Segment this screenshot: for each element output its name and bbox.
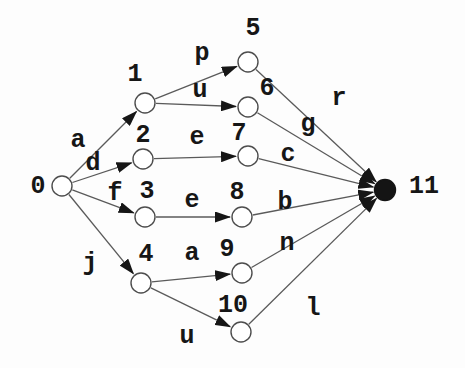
node-label-0: 0 — [30, 172, 45, 201]
edge-label-0-1: a — [70, 126, 85, 155]
node-9 — [232, 263, 252, 283]
node-label-4: 4 — [138, 240, 153, 269]
node-6 — [238, 97, 258, 117]
edge-label-4-10: u — [179, 322, 194, 351]
edge-label-0-2: d — [85, 149, 100, 178]
edge-8-11 — [253, 192, 373, 215]
edge-label-4-9: a — [184, 239, 199, 268]
edge-label-2-7: e — [189, 123, 204, 152]
node-4 — [131, 273, 151, 293]
directed-graph-svg: adfjpueeaurgcbnl01234567891011 — [0, 0, 465, 368]
edge-label-6-11: g — [300, 110, 315, 139]
diagram-canvas: adfjpueeaurgcbnl01234567891011 — [0, 0, 465, 368]
node-label-9: 9 — [219, 235, 234, 264]
edge-4-9 — [152, 274, 230, 282]
node-10 — [231, 322, 251, 342]
edge-label-3-8: e — [184, 186, 199, 215]
node-8 — [232, 207, 252, 227]
edge-label-10-11: l — [305, 294, 320, 323]
node-label-1: 1 — [127, 60, 142, 89]
edge-label-5-11: r — [331, 84, 346, 113]
edge-9-11 — [252, 196, 375, 268]
edge-0-4 — [69, 195, 133, 274]
edge-label-1-6: u — [192, 76, 207, 105]
edge-label-7-11: c — [280, 140, 295, 169]
node-label-8: 8 — [229, 178, 244, 207]
edge-2-7 — [154, 156, 236, 158]
node-2 — [133, 149, 153, 169]
node-7 — [238, 146, 258, 166]
node-label-11: 11 — [409, 172, 439, 201]
node-label-7: 7 — [231, 119, 246, 148]
node-label-3: 3 — [139, 177, 154, 206]
node-0 — [52, 176, 72, 196]
edge-label-9-11: n — [279, 229, 294, 258]
node-5 — [238, 52, 258, 72]
edge-label-0-4: j — [82, 249, 97, 278]
edge-label-0-3: f — [107, 179, 122, 208]
node-label-10: 10 — [218, 291, 248, 320]
node-3 — [135, 207, 155, 227]
node-1 — [135, 93, 155, 113]
node-label-5: 5 — [245, 14, 260, 43]
node-11-final — [375, 180, 396, 201]
node-label-6: 6 — [259, 74, 274, 103]
edge-label-1-5: p — [194, 39, 209, 68]
node-label-2: 2 — [135, 121, 150, 150]
edge-0-2 — [72, 163, 131, 183]
edge-label-8-11: b — [277, 188, 292, 217]
